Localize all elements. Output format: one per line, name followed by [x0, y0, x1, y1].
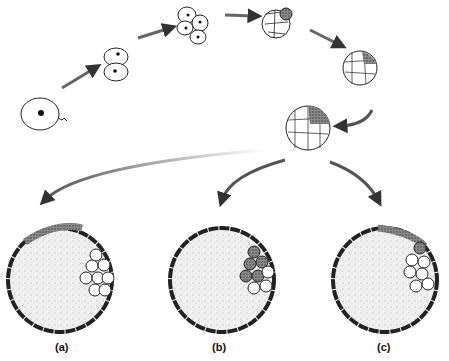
four-cell — [177, 7, 208, 44]
arrow-3 — [225, 15, 255, 16]
arrow-to-a — [45, 150, 265, 200]
two-cell — [104, 48, 128, 81]
arrow-to-b — [222, 160, 285, 200]
label-b: (b) — [212, 341, 226, 353]
blastocyst-c — [333, 228, 437, 332]
label-c: (c) — [377, 341, 390, 353]
arrow-4 — [310, 30, 340, 45]
arrow-2 — [138, 28, 170, 38]
early-blastocyst — [286, 106, 330, 150]
zygote — [21, 98, 67, 130]
arrow-5 — [340, 110, 372, 126]
blastocyst-b — [170, 228, 274, 332]
blastocyst-a — [8, 227, 114, 332]
eight-cell — [262, 8, 292, 38]
arrow-1 — [62, 68, 95, 88]
label-a: (a) — [55, 341, 68, 353]
arrow-to-c — [330, 162, 378, 200]
morula — [343, 51, 377, 85]
